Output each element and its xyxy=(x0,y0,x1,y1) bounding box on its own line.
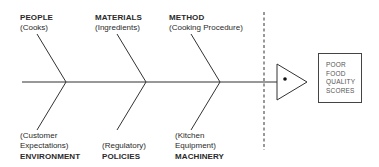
effect-line: FOOD xyxy=(326,70,355,79)
effect-label: POOR FOOD QUALITY SCORES xyxy=(326,61,355,95)
bone-materials xyxy=(117,34,146,82)
cause-machinery: (Kitchen Equipment) MACHINERY xyxy=(175,131,224,162)
cause-people: PEOPLE (Cooks) xyxy=(20,13,53,32)
cause-detail: Equipment) xyxy=(175,141,224,151)
cause-policies: (Regulatory) POLICIES xyxy=(102,141,146,162)
effect-line: QUALITY xyxy=(326,78,355,87)
effect-box: POOR FOOD QUALITY SCORES xyxy=(318,53,362,103)
bone-environment xyxy=(37,82,66,130)
cause-environment: (Customer Expectations) ENVIRONMENT xyxy=(20,131,80,162)
cause-detail: (Ingredients) xyxy=(95,23,142,33)
effect-line: SCORES xyxy=(326,87,355,96)
effect-line: POOR xyxy=(326,61,355,70)
cause-category: MACHINERY xyxy=(175,152,224,162)
cause-category: POLICIES xyxy=(102,152,146,162)
cause-category: PEOPLE xyxy=(20,13,53,23)
bone-people xyxy=(37,34,66,82)
cause-detail: (Cooks) xyxy=(20,23,53,33)
cause-materials: MATERIALS (Ingredients) xyxy=(95,13,142,32)
cause-detail: (Regulatory) xyxy=(102,141,146,151)
cause-category: METHOD xyxy=(169,13,243,23)
fish-head-triangle xyxy=(277,64,307,100)
cause-category: ENVIRONMENT xyxy=(20,152,80,162)
cause-detail: Expectations) xyxy=(20,141,80,151)
bone-method xyxy=(191,34,220,82)
cause-detail: (Cooking Procedure) xyxy=(169,23,243,33)
fish-eye-dot xyxy=(283,77,287,81)
cause-detail: (Kitchen xyxy=(175,131,224,141)
bone-machinery xyxy=(191,82,220,130)
cause-detail: (Customer xyxy=(20,131,80,141)
cause-category: MATERIALS xyxy=(95,13,142,23)
bone-policies xyxy=(117,82,146,130)
cause-method: METHOD (Cooking Procedure) xyxy=(169,13,243,32)
